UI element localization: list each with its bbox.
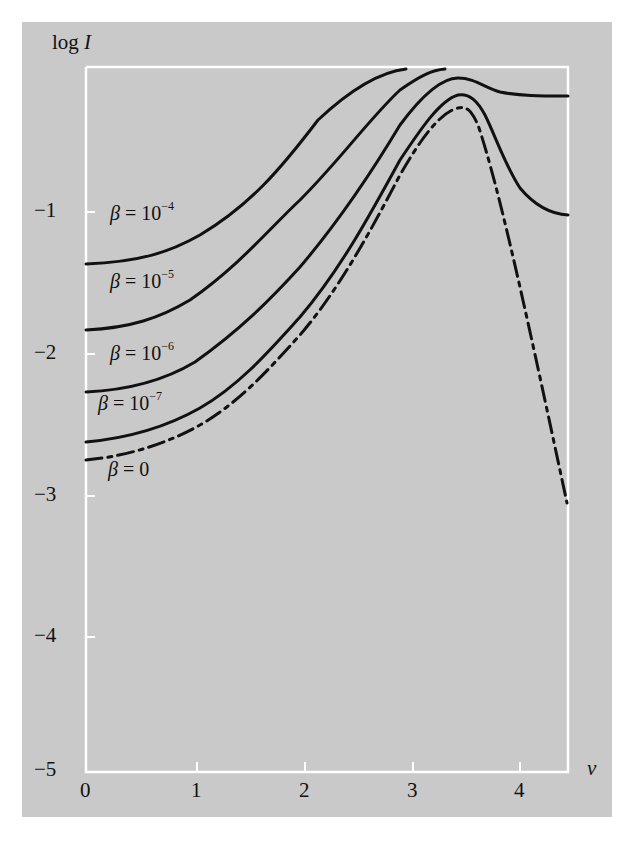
beta-symbol: β — [98, 392, 108, 414]
label-exponent: −5 — [161, 267, 174, 281]
plot-area — [0, 0, 631, 849]
y-axis-title-var: I — [84, 30, 91, 54]
label-beta-0: β = 0 — [108, 458, 149, 481]
y-tick-label: −5 — [34, 757, 56, 782]
label-beta-1e-6: β = 10−6 — [110, 341, 174, 365]
label-exponent: −6 — [161, 339, 174, 353]
beta-symbol: β — [110, 342, 120, 364]
x-tick-label: 4 — [514, 778, 525, 803]
y-axis-title: log I — [52, 30, 91, 55]
y-ticks — [86, 212, 95, 637]
y-tick-label: −2 — [34, 340, 56, 365]
label-beta-1e-4: β = 10−4 — [110, 201, 174, 225]
label-value: = 10 — [120, 202, 161, 224]
label-beta-1e-7: β = 10−7 — [98, 391, 162, 415]
x-axis-title: v — [587, 756, 596, 781]
y-tick-label: −1 — [34, 198, 56, 223]
y-tick-label: −3 — [34, 482, 56, 507]
label-value: = 10 — [120, 342, 161, 364]
x-tick-label: 3 — [407, 778, 418, 803]
x-tick-label: 0 — [80, 778, 91, 803]
x-tick-label: 1 — [191, 778, 202, 803]
curve-beta-0 — [86, 108, 567, 503]
label-exponent: −4 — [161, 199, 174, 213]
y-tick-label: −4 — [34, 623, 56, 648]
label-beta-1e-5: β = 10−5 — [110, 269, 174, 293]
beta-symbol: β — [110, 202, 120, 224]
y-axis-title-main: log — [52, 30, 84, 54]
beta-symbol: β — [110, 270, 120, 292]
label-value: = 10 — [108, 392, 149, 414]
label-value: = 0 — [118, 458, 149, 480]
x-ticks — [197, 762, 520, 772]
beta-symbol: β — [108, 458, 118, 480]
x-tick-label: 2 — [299, 778, 310, 803]
label-value: = 10 — [120, 270, 161, 292]
label-exponent: −7 — [149, 389, 162, 403]
